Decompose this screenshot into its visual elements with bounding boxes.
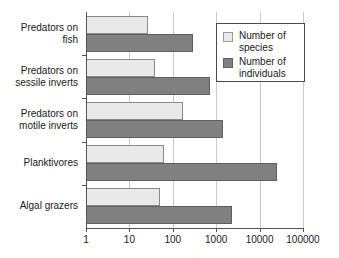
- x-axis-tick: [303, 228, 304, 232]
- category-label: Predators on fish: [0, 22, 78, 46]
- category-label: Algal grazers: [0, 200, 78, 212]
- category-label: Planktivores: [0, 157, 78, 169]
- legend-label-individuals: Number of individuals: [239, 56, 286, 79]
- bar-species: [86, 102, 183, 120]
- legend-item-species: Number of species: [223, 30, 286, 53]
- x-axis-tick: [173, 228, 174, 232]
- bar-species: [86, 16, 148, 34]
- x-axis-tick-label: 100: [164, 234, 181, 245]
- legend-label-species: Number of species: [239, 30, 286, 53]
- y-axis-tick: [82, 142, 87, 143]
- legend-swatch-individuals-icon: [223, 58, 233, 68]
- x-axis-tick: [260, 228, 261, 232]
- legend-swatch-species-icon: [223, 32, 233, 42]
- x-axis-tick-label: 100000: [286, 234, 319, 245]
- bar-species: [86, 188, 160, 206]
- x-axis-tick: [129, 228, 130, 232]
- bar-individuals: [86, 77, 210, 95]
- y-axis-line: [86, 12, 87, 229]
- x-axis-tick: [216, 228, 217, 232]
- bar-individuals: [86, 34, 193, 52]
- category-label: Predators on motile inverts: [0, 108, 78, 132]
- x-axis-tick-label: 1000: [205, 234, 227, 245]
- bar-individuals: [86, 120, 223, 138]
- y-axis-tick: [82, 55, 87, 56]
- x-axis-line: [86, 228, 304, 229]
- category-label: Predators on sessile inverts: [0, 65, 78, 89]
- bar-individuals: [86, 206, 232, 224]
- x-axis-tick-label: 10000: [246, 234, 274, 245]
- y-axis-tick: [82, 185, 87, 186]
- bar-individuals: [86, 163, 277, 181]
- legend: Number of species Number of individuals: [216, 23, 305, 82]
- bar-species: [86, 145, 164, 163]
- y-axis-tick: [82, 98, 87, 99]
- x-axis-tick: [86, 228, 87, 232]
- legend-item-individuals: Number of individuals: [223, 56, 286, 79]
- x-axis-tick-label: 10: [124, 234, 135, 245]
- bar-species: [86, 59, 155, 77]
- bar-chart: 110100100010000100000 Predators on fishP…: [0, 0, 339, 258]
- x-axis-tick-label: 1: [83, 234, 89, 245]
